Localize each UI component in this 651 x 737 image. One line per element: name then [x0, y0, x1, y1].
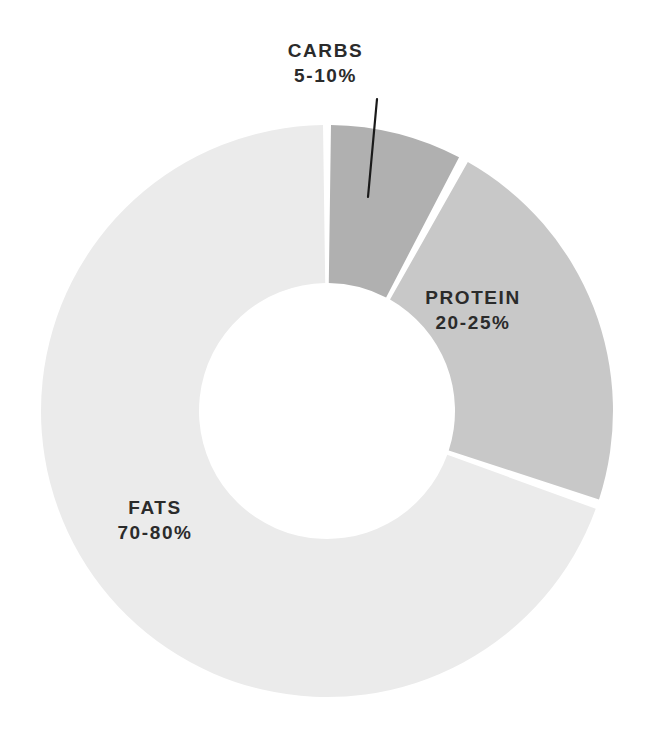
carbs-label-value: 5-10% [0, 63, 651, 88]
donut-label-protein: PROTEIN 20-25% [383, 285, 563, 335]
fats-label-name: FATS [65, 495, 245, 520]
donut-slices [41, 125, 613, 697]
carbs-label-name: CARBS [0, 38, 651, 63]
protein-label-value: 20-25% [383, 310, 563, 335]
donut-chart-graphic [0, 0, 651, 737]
fats-label-value: 70-80% [65, 520, 245, 545]
donut-label-fats: FATS 70-80% [65, 495, 245, 545]
donut-label-carbs: CARBS 5-10% [0, 38, 651, 88]
protein-label-name: PROTEIN [383, 285, 563, 310]
donut-chart-page: CARBS 5-10% PROTEIN 20-25% FATS 70-80% [0, 0, 651, 737]
